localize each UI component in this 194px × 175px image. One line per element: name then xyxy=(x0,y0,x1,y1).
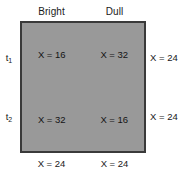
row-margin-t1: X = 24 xyxy=(150,52,194,63)
column-header-bright: Bright xyxy=(20,4,83,19)
column-header-row: Bright Dull xyxy=(20,4,146,19)
column-header-dull: Dull xyxy=(83,4,146,19)
factorial-design-figure: Bright Dull X = 16 X = 32 X = 32 X = 16 … xyxy=(0,0,194,175)
column-margin-row: X = 24 X = 24 xyxy=(20,157,146,171)
row-label-t2-subscript: 2 xyxy=(8,116,12,123)
two-by-two-matrix: X = 16 X = 32 X = 32 X = 16 xyxy=(20,21,146,153)
column-margin-dull: X = 24 xyxy=(83,157,146,171)
row-label-t1: t1 xyxy=(0,52,18,63)
row-margin-t2: X = 24 xyxy=(150,111,194,122)
column-margin-bright: X = 24 xyxy=(20,157,83,171)
row-label-t2: t2 xyxy=(0,111,18,122)
cell-t2-bright: X = 32 xyxy=(22,89,82,152)
cell-t1-dull: X = 32 xyxy=(85,23,145,86)
row-label-t1-subscript: 1 xyxy=(8,57,12,64)
cell-t2-dull: X = 16 xyxy=(85,89,145,152)
cell-t1-bright: X = 16 xyxy=(22,23,82,86)
